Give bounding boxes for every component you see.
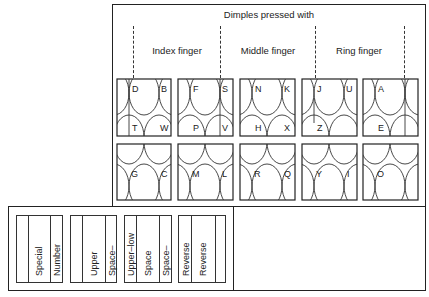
finger-divider (404, 26, 405, 78)
diagram-title: Dimples pressed with (112, 9, 426, 20)
key-letter: H (255, 123, 262, 133)
finger-label-middle: Middle finger (223, 45, 313, 56)
key-letter: F (193, 84, 199, 94)
key-letter: P (193, 123, 199, 133)
bar-label: Reverse (181, 242, 191, 276)
key-letter: U (346, 84, 353, 94)
key-letter: W (160, 123, 169, 133)
bar-label: Space (143, 250, 153, 276)
bar-label: Space– (161, 245, 171, 276)
key-letter: Y (316, 169, 322, 179)
bar-key-reverse[interactable]: Reverse Reverse (178, 215, 226, 283)
key-letter: D (132, 84, 139, 94)
bar-label: Space– (107, 245, 117, 276)
key-letter: O (377, 169, 384, 179)
bar-divider (82, 216, 83, 282)
key-letter: S (222, 84, 228, 94)
bar-key-upper-space[interactable]: Upper Space– (70, 215, 117, 283)
bar-divider (215, 216, 216, 282)
key-letter: A (378, 84, 384, 94)
key-letter: L (222, 169, 227, 179)
dimple-key-bottom[interactable]: M L (178, 144, 233, 200)
dimple-key-bottom[interactable]: O (363, 144, 418, 200)
empty-panel (233, 206, 426, 291)
bar-label: Number (52, 244, 62, 276)
finger-label-index: Index finger (132, 45, 222, 56)
key-letter: M (192, 169, 200, 179)
dimple-key-bottom[interactable]: R Q (240, 144, 295, 200)
dimple-key-top[interactable]: F S P V (178, 79, 233, 136)
bar-divider (136, 216, 137, 282)
bar-label: Upper–low (126, 233, 136, 276)
key-letter: T (132, 123, 138, 133)
dimple-key-bottom[interactable]: G C (117, 144, 171, 200)
dimple-key-top[interactable]: N K H X (240, 79, 295, 136)
key-letter: B (161, 84, 167, 94)
key-letter: K (284, 84, 290, 94)
dimple-key-top[interactable]: D B T W (117, 79, 171, 136)
bar-divider (159, 216, 160, 282)
key-letter: V (222, 123, 228, 133)
bar-key-upperlow-space[interactable]: Upper–low Space Space– (124, 215, 172, 283)
bar-key-special-number[interactable]: Special Number (16, 215, 63, 283)
key-letter: G (131, 169, 138, 179)
dimple-key-bottom[interactable]: Y I (302, 144, 357, 200)
bar-divider (191, 216, 192, 282)
finger-label-ring: Ring finger (314, 45, 404, 56)
bar-label: Special (34, 246, 44, 276)
dimple-key-top[interactable]: J U Z (302, 79, 357, 136)
bar-divider (28, 216, 29, 282)
key-letter: R (254, 169, 261, 179)
key-letter: N (255, 84, 262, 94)
bar-label: Reverse (198, 242, 208, 276)
key-letter: X (284, 123, 290, 133)
key-letter: I (347, 169, 350, 179)
key-letter: C (161, 169, 168, 179)
dimple-key-top[interactable]: A E (363, 79, 418, 136)
bar-label: Upper (89, 251, 99, 276)
key-letter: Z (317, 123, 323, 133)
key-letter: E (378, 123, 384, 133)
key-letter: Q (284, 169, 291, 179)
bar-divider (105, 216, 106, 282)
bar-divider (50, 216, 51, 282)
key-letter: J (317, 84, 322, 94)
